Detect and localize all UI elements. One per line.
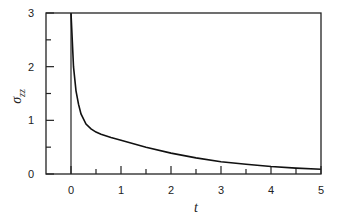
- x-tick-label: 5: [318, 184, 324, 196]
- axis-ticks: [46, 13, 321, 174]
- data-curve: [71, 13, 321, 169]
- x-tick-label: 1: [118, 184, 124, 196]
- y-tick-label: 3: [28, 7, 34, 19]
- plot-frame: [46, 13, 321, 174]
- y-tick-labels: 0123: [28, 7, 34, 180]
- y-axis-label: σzz: [9, 89, 27, 104]
- chart: 012345 0123 t σzz: [0, 0, 338, 221]
- x-tick-label: 4: [268, 184, 274, 196]
- x-tick-label: 2: [168, 184, 174, 196]
- x-axis-label: t: [194, 200, 199, 215]
- x-tick-label: 3: [218, 184, 224, 196]
- y-tick-label: 0: [28, 168, 34, 180]
- x-tick-label: 0: [68, 184, 74, 196]
- y-tick-label: 1: [28, 114, 34, 126]
- y-tick-label: 2: [28, 61, 34, 73]
- x-tick-labels: 012345: [68, 184, 324, 196]
